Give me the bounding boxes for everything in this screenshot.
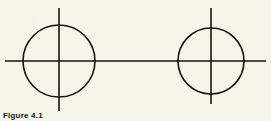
figure-container: Figure 4.1 xyxy=(0,0,271,121)
figure-drawing xyxy=(0,0,271,121)
figure-caption: Figure 4.1 xyxy=(3,111,43,121)
